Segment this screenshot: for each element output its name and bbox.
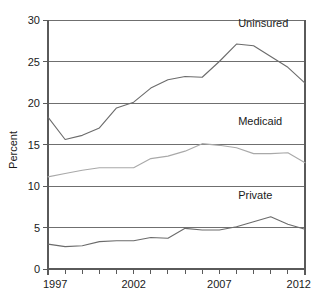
- y-tick-label-20: 20: [28, 97, 40, 109]
- data-series-group: [48, 44, 305, 247]
- y-tickmarks-group: [43, 20, 48, 269]
- x-tick-labels-group: 1997200220072012: [43, 278, 311, 290]
- x-tick-label-2012: 2012: [287, 278, 311, 290]
- series-line-private: [48, 217, 305, 247]
- x-tick-label-2002: 2002: [121, 278, 145, 290]
- y-tick-label-5: 5: [34, 222, 40, 234]
- y-tick-label-30: 30: [28, 14, 40, 26]
- y-tick-label-25: 25: [28, 56, 40, 68]
- line-chart: 051015202530 1997200220072012 UninsuredM…: [0, 0, 322, 301]
- x-tick-label-1997: 1997: [43, 278, 67, 290]
- series-label-private: Private: [238, 189, 272, 201]
- axis-lines-group: [48, 20, 305, 275]
- y-tick-label-10: 10: [28, 180, 40, 192]
- x-tick-label-2007: 2007: [207, 278, 231, 290]
- series-line-medicaid: [48, 144, 305, 177]
- y-tick-labels-group: 051015202530: [28, 14, 40, 275]
- y-tick-label-0: 0: [34, 263, 40, 275]
- x-tickmarks-group: [48, 269, 305, 274]
- chart-container: 051015202530 1997200220072012 UninsuredM…: [0, 0, 322, 301]
- series-label-medicaid: Medicaid: [238, 115, 282, 127]
- series-label-uninsured: Uninsured: [238, 17, 288, 29]
- y-axis-title: Percent: [7, 131, 19, 169]
- y-tick-label-15: 15: [28, 139, 40, 151]
